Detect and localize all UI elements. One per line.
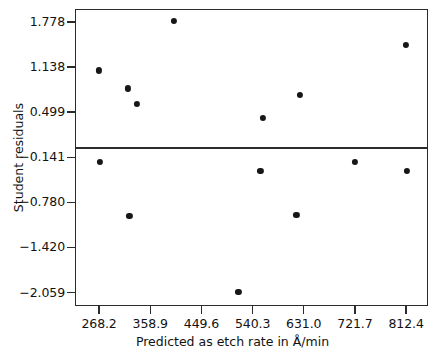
y-axis-tick xyxy=(67,292,76,293)
x-axis-tick xyxy=(405,306,406,314)
x-axis-tick-label: 358.9 xyxy=(133,316,168,331)
y-axis-tick-label: 1.778 xyxy=(30,14,65,29)
y-axis-tick-label: −1.420 xyxy=(19,239,65,254)
y-axis-tick-label: −0.141 xyxy=(19,149,65,164)
x-axis-tick xyxy=(150,306,151,314)
y-axis-tick xyxy=(67,111,76,112)
x-axis-tick-label: 540.3 xyxy=(235,316,270,331)
x-axis-tick xyxy=(201,306,202,314)
x-axis-tick-label: 631.0 xyxy=(286,316,321,331)
x-axis-tick xyxy=(98,306,99,314)
y-axis-tick-label: −2.059 xyxy=(19,285,65,300)
y-axis-tick xyxy=(67,21,76,22)
zero-reference-line xyxy=(75,147,428,149)
y-axis-tick-label: −0.780 xyxy=(19,194,65,209)
x-axis-tick-label: 268.2 xyxy=(81,316,116,331)
y-axis-title: Student residuals xyxy=(11,58,26,258)
x-axis-tick xyxy=(303,306,304,314)
y-axis-tick xyxy=(67,157,76,158)
y-axis-tick xyxy=(67,247,76,248)
y-axis-tick-label: 0.499 xyxy=(30,104,65,119)
x-axis-title-text: Predicted as etch rate in Å/min xyxy=(136,334,329,349)
plot-area-frame xyxy=(75,9,428,306)
x-axis-tick xyxy=(252,306,253,314)
y-axis-tick-label: 1.138 xyxy=(30,59,65,74)
x-axis-tick-label: 812.4 xyxy=(388,316,423,331)
x-axis-tick xyxy=(354,306,355,314)
x-axis-title: Predicted as etch rate in Å/min xyxy=(0,334,437,349)
y-axis-tick xyxy=(67,66,76,67)
y-axis-tick xyxy=(67,202,76,203)
x-axis-tick-label: 721.7 xyxy=(337,316,372,331)
x-axis-tick-label: 449.6 xyxy=(184,316,219,331)
scatter-plot: 1.7781.1380.499−0.141−0.780−1.420−2.059 … xyxy=(0,0,437,355)
